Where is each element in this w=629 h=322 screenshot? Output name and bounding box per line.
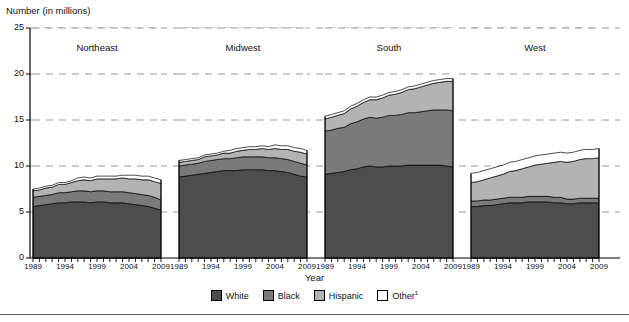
x-axis-title: Year bbox=[0, 272, 629, 283]
x-tick-label: 1989 bbox=[310, 262, 340, 271]
area-band-black bbox=[325, 110, 453, 174]
area-band-hispanic bbox=[33, 178, 161, 200]
chart-legend: WhiteBlackHispanicOther1 bbox=[0, 290, 629, 301]
legend-label: Hispanic bbox=[329, 291, 364, 301]
panel-background bbox=[33, 28, 161, 258]
x-tick-label: 1994 bbox=[342, 262, 372, 271]
x-tick-label: 2004 bbox=[114, 262, 144, 271]
y-tick-label: 5 bbox=[2, 206, 24, 216]
area-band-hispanic bbox=[179, 149, 307, 166]
legend-item-hispanic[interactable]: Hispanic bbox=[314, 290, 364, 301]
x-tick-label: 2004 bbox=[406, 262, 436, 271]
legend-label: White bbox=[226, 291, 249, 301]
legend-item-white[interactable]: White bbox=[211, 290, 249, 301]
area-band-white bbox=[179, 170, 307, 258]
area-band-other bbox=[179, 145, 307, 162]
panel-title-south: South bbox=[315, 42, 463, 53]
area-band-black bbox=[33, 191, 161, 210]
y-tick-label: 20 bbox=[2, 68, 24, 78]
y-tick-label: 10 bbox=[2, 160, 24, 170]
area-band-other bbox=[33, 175, 161, 191]
x-tick-label: 1999 bbox=[374, 262, 404, 271]
panel-title-midwest: Midwest bbox=[169, 42, 317, 53]
y-tick-label: 0 bbox=[2, 252, 24, 262]
panel-background bbox=[471, 28, 599, 258]
legend-swatch-icon bbox=[377, 290, 388, 301]
area-band-hispanic bbox=[471, 158, 599, 201]
legend-item-other[interactable]: Other1 bbox=[377, 290, 418, 301]
x-tick-label: 1999 bbox=[228, 262, 258, 271]
y-axis-title: Number (in millions) bbox=[6, 5, 90, 16]
x-tick-label: 2004 bbox=[552, 262, 582, 271]
chart-figure: Number (in millions) 0510152025 Northeas… bbox=[0, 0, 629, 322]
legend-item-black[interactable]: Black bbox=[263, 290, 300, 301]
legend-swatch-icon bbox=[314, 290, 325, 301]
x-tick-label: 1989 bbox=[456, 262, 486, 271]
x-tick-label: 1989 bbox=[164, 262, 194, 271]
panel-background bbox=[325, 28, 453, 258]
legend-swatch-icon bbox=[263, 290, 274, 301]
x-tick-label: 1994 bbox=[488, 262, 518, 271]
legend-swatch-icon bbox=[211, 290, 222, 301]
x-tick-label: 1999 bbox=[82, 262, 112, 271]
panel-title-northeast: Northeast bbox=[23, 42, 171, 53]
panel-background bbox=[179, 28, 307, 258]
legend-label: Black bbox=[278, 291, 300, 301]
y-tick-label: 25 bbox=[2, 22, 24, 32]
area-band-white bbox=[33, 202, 161, 258]
area-band-white bbox=[325, 165, 453, 258]
x-tick-label: 1994 bbox=[50, 262, 80, 271]
legend-footnote-marker: 1 bbox=[415, 290, 418, 296]
area-band-other bbox=[471, 149, 599, 183]
area-band-white bbox=[471, 202, 599, 258]
x-tick-label: 2009 bbox=[584, 262, 614, 271]
area-band-other bbox=[325, 79, 453, 119]
x-tick-label: 2004 bbox=[260, 262, 290, 271]
panel-title-west: West bbox=[461, 42, 609, 53]
x-tick-label: 1989 bbox=[18, 262, 48, 271]
y-tick-label: 15 bbox=[2, 114, 24, 124]
x-tick-label: 1994 bbox=[196, 262, 226, 271]
x-tick-label: 1999 bbox=[520, 262, 550, 271]
area-band-hispanic bbox=[325, 81, 453, 131]
area-band-black bbox=[471, 196, 599, 206]
area-band-black bbox=[179, 157, 307, 177]
footer-divider bbox=[0, 314, 629, 315]
legend-label: Other1 bbox=[392, 290, 418, 301]
